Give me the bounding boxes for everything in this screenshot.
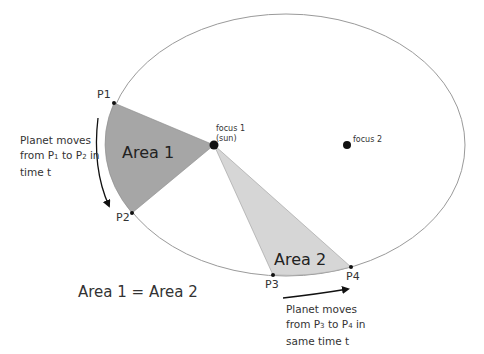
focus-2-label: focus 2 (353, 135, 382, 145)
motion-note-1: Planet moves from P1 to P2 in time t (20, 133, 100, 180)
point-p2-dot (130, 211, 134, 215)
point-p3-dot (271, 273, 275, 277)
motion-note-2-line2: from P3 to P4 in (286, 317, 366, 334)
focus-1-label-line2: (sun) (216, 134, 245, 144)
motion-note-2-line3: same time t (286, 334, 366, 349)
motion-note-2-line1: Planet moves (286, 302, 366, 317)
text-part: in (353, 318, 366, 330)
point-p4-label: P4 (346, 270, 360, 283)
point-p1-dot (112, 101, 116, 105)
focus-2-dot (343, 141, 351, 149)
motion-note-2: Planet moves from P3 to P4 in same time … (286, 302, 366, 349)
focus-1-label: focus 1 (sun) (216, 124, 245, 144)
point-p3-label: P3 (265, 278, 279, 291)
area-1-label: Area 1 (122, 143, 174, 162)
text-part: to P (59, 149, 83, 161)
motion-arrow-2-icon (283, 289, 348, 298)
point-p2-label: P2 (116, 211, 130, 224)
text-part: in (87, 149, 100, 161)
point-p4-dot (349, 265, 353, 269)
text-part: from P (20, 149, 54, 161)
motion-note-1-line3: time t (20, 165, 100, 180)
focus-1-label-line1: focus 1 (216, 124, 245, 134)
area-equation: Area 1 = Area 2 (78, 283, 198, 301)
motion-note-1-line2: from P1 to P2 in (20, 148, 100, 165)
point-p1-label: P1 (97, 88, 111, 101)
text-part: to P (325, 318, 349, 330)
motion-note-1-line1: Planet moves (20, 133, 100, 148)
text-part: from P (286, 318, 320, 330)
area-2-label: Area 2 (274, 250, 326, 269)
